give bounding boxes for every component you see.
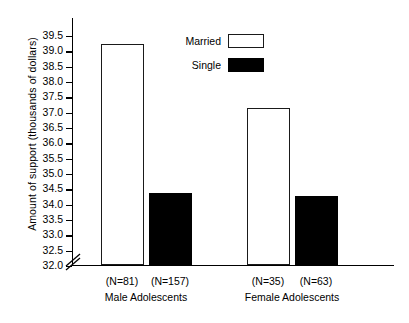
y-tick-label: 38.5 [43,60,63,72]
y-tick-label: 36.0 [43,136,63,148]
y-tick-label: 33.0 [43,228,63,240]
y-tick-mark [66,82,72,83]
y-tick-mark [66,189,72,190]
y-tick-mark [66,97,72,98]
category-label: (N=63) [300,275,332,287]
group-label: Male Adolescents [105,291,187,303]
legend-swatch [228,34,264,48]
group-label: Female Adolescents [245,291,340,303]
y-tick-mark [66,205,72,206]
y-tick-label: 32.5 [43,244,63,256]
y-tick-mark [66,128,72,129]
y-tick-mark [66,36,72,37]
y-tick-mark [66,67,72,68]
legend-swatch [228,58,264,72]
legend: MarriedSingle [160,33,264,81]
y-tick-label: 33.5 [43,213,63,225]
legend-label: Married [185,35,221,47]
y-tick-label: 39.0 [43,44,63,56]
y-tick-label: 37.0 [43,106,63,118]
category-label: (N=81) [106,275,138,287]
y-tick-mark [66,235,72,236]
y-tick-label: 34.5 [43,182,63,194]
y-tick-label: 37.5 [43,90,63,102]
y-tick-label: 36.5 [43,121,63,133]
legend-item: Married [160,33,264,48]
y-tick-label: 39.5 [43,29,63,41]
y-tick-mark [66,159,72,160]
y-tick-mark [66,174,72,175]
y-tick-mark [66,220,72,221]
legend-item: Single [160,57,264,72]
y-tick-mark [66,143,72,144]
bar [101,44,144,265]
category-label: (N=157) [151,275,189,287]
y-tick-label: 35.0 [43,167,63,179]
y-tick-mark [66,113,72,114]
y-tick-mark [66,51,72,52]
y-axis-line [72,18,73,266]
category-label: (N=35) [252,275,284,287]
legend-label: Single [192,59,221,71]
bar-chart: Amount of support (thousands of dollars)… [0,0,409,323]
y-tick-label: 32.0 [43,259,63,271]
bar [149,193,192,265]
axis-break-icon [64,250,82,272]
y-axis-title: Amount of support (thousands of dollars) [26,6,38,262]
y-tick-label: 38.0 [43,75,63,87]
bar [247,108,290,264]
bar [295,196,338,265]
y-tick-label: 35.5 [43,152,63,164]
x-axis-line [72,265,394,266]
y-tick-label: 34.0 [43,198,63,210]
